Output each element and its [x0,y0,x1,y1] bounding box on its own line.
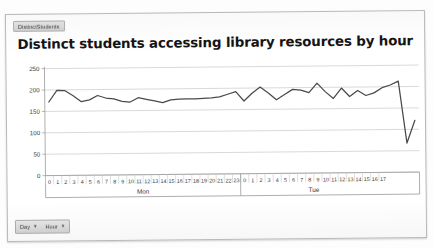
svg-text:14: 14 [160,178,166,184]
day-dropdown-label: Day [20,224,30,230]
svg-text:3: 3 [268,177,271,183]
svg-text:0: 0 [37,172,41,179]
svg-text:2: 2 [259,177,262,183]
report-panel: DistinctStudents Distinct students acces… [5,10,427,242]
svg-text:3: 3 [72,179,75,185]
svg-text:9: 9 [121,178,124,184]
day-dropdown[interactable]: Day ▼ [16,221,42,233]
svg-text:12: 12 [339,176,345,182]
svg-text:14: 14 [356,176,362,182]
hour-dropdown[interactable]: Hour ▼ [41,220,69,232]
hour-dropdown-label: Hour [45,224,57,230]
svg-text:2: 2 [64,179,67,185]
svg-text:Tue: Tue [308,186,319,193]
svg-text:1: 1 [251,177,254,183]
svg-text:18: 18 [193,178,199,184]
svg-text:17: 17 [185,178,191,184]
chart-day-group-labels: MonTue [137,186,320,195]
svg-text:50: 50 [33,150,41,157]
svg-text:15: 15 [169,178,175,184]
line-chart-svg: 050100150200250 012345678910111213141516… [6,55,428,219]
svg-text:11: 11 [136,178,142,184]
chevron-down-icon: ▼ [33,224,38,229]
chart-plot-area[interactable]: 050100150200250 012345678910111213141516… [6,55,428,219]
svg-text:0: 0 [48,179,51,185]
svg-text:9: 9 [316,177,319,183]
svg-text:7: 7 [105,179,108,185]
chart-control-bar[interactable]: Day ▼ Hour ▼ [15,219,70,234]
svg-text:23: 23 [234,177,240,183]
svg-text:5: 5 [284,177,287,183]
svg-text:10: 10 [128,178,134,184]
svg-text:4: 4 [276,177,279,183]
page-background: DistinctStudents Distinct students acces… [0,0,433,248]
svg-text:8: 8 [308,177,311,183]
svg-text:5: 5 [89,179,92,185]
svg-text:11: 11 [331,176,337,182]
svg-text:4: 4 [81,179,84,185]
svg-text:250: 250 [29,65,40,72]
svg-text:6: 6 [292,177,295,183]
svg-text:13: 13 [347,176,353,182]
svg-text:1: 1 [56,179,59,185]
svg-text:100: 100 [30,129,41,136]
svg-text:17: 17 [380,176,386,182]
svg-text:21: 21 [217,177,223,183]
svg-text:0: 0 [243,177,246,183]
svg-text:10: 10 [323,176,329,182]
chart-y-axis-labels: 050100150200250 [29,65,41,179]
svg-text:20: 20 [209,178,215,184]
svg-text:22: 22 [225,177,231,183]
chart-gridlines [41,65,419,176]
svg-text:16: 16 [372,176,378,182]
svg-text:6: 6 [97,179,100,185]
svg-text:19: 19 [201,178,207,184]
svg-text:150: 150 [29,108,40,115]
svg-text:7: 7 [300,177,303,183]
svg-text:16: 16 [177,178,183,184]
svg-text:8: 8 [113,178,116,184]
chart-x-axis-labels: 0123456789101112131415161718192021222301… [48,176,386,185]
chevron-down-icon: ▼ [61,224,66,229]
chart-series-line [49,81,415,147]
sheet-tab-distinct-students[interactable]: DistinctStudents [13,20,65,31]
svg-text:12: 12 [144,178,150,184]
svg-text:Mon: Mon [137,188,150,195]
svg-text:200: 200 [29,86,40,93]
chart-title: Distinct students accessing library reso… [6,33,424,52]
svg-text:13: 13 [152,178,158,184]
svg-text:15: 15 [364,176,370,182]
